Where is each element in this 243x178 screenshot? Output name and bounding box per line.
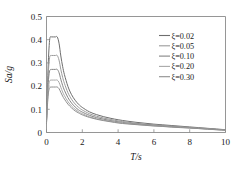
y-axis-title: Sa/g (4, 66, 14, 83)
x-tick-label: 2 (80, 137, 85, 147)
legend-label-1: ξ=0.05 (172, 42, 195, 51)
legend-label-4: ξ=0.30 (172, 73, 195, 82)
x-tick-label: 8 (187, 137, 192, 147)
x-tick-label: 0 (44, 137, 49, 147)
plot-border (47, 17, 226, 133)
x-tick-label: 4 (116, 137, 121, 147)
curve-0 (47, 36, 226, 129)
y-tick-labels: 00.10.20.30.40.5 (31, 12, 43, 138)
x-axis-title: T/s (130, 152, 142, 162)
y-tick-label: 0 (38, 128, 43, 138)
y-tick-label: 0.5 (31, 12, 43, 22)
y-tick-label: 0.1 (31, 105, 42, 115)
legend-label-0: ξ=0.02 (172, 32, 195, 41)
y-tick-label: 0.3 (31, 58, 43, 68)
x-axis-title-text: T/s (130, 152, 142, 162)
curve-2 (47, 69, 226, 130)
x-tick-label: 10 (221, 137, 231, 147)
y-axis-title-text: Sa/g (4, 66, 14, 83)
legend-label-2: ξ=0.10 (172, 52, 195, 61)
curve-1 (47, 55, 226, 130)
legend-label-3: ξ=0.20 (172, 62, 195, 71)
axis-ticks (47, 17, 226, 133)
chart-canvas: 0246810 00.10.20.30.40.5 ξ=0.02ξ=0.05ξ=0… (0, 0, 243, 178)
x-tick-label: 6 (152, 137, 157, 147)
x-tick-labels: 0246810 (44, 137, 230, 147)
y-tick-label: 0.2 (31, 81, 42, 91)
y-tick-label: 0.4 (31, 35, 43, 45)
plot-frame (47, 17, 226, 133)
response-spectrum-figure: 0246810 00.10.20.30.40.5 ξ=0.02ξ=0.05ξ=0… (0, 0, 243, 178)
chart-legend: ξ=0.02ξ=0.05ξ=0.10ξ=0.20ξ=0.30 (159, 32, 194, 82)
data-curves (47, 36, 226, 130)
